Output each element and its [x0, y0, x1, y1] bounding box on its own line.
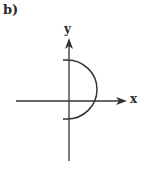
graph	[0, 0, 146, 169]
x-axis-label: x	[130, 92, 137, 106]
y-axis-label: y	[64, 22, 71, 36]
semicircle-curve	[63, 60, 97, 119]
